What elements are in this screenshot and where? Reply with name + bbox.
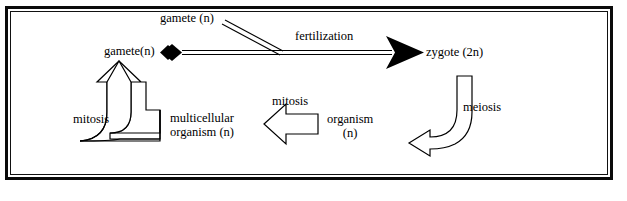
label-organism-line2: (n) [327, 126, 373, 140]
label-organism: organism (n) [327, 112, 373, 140]
solid-diamond-marker-body [162, 44, 182, 61]
gamete-join-line-upper [225, 20, 283, 51]
label-organism-line1: organism [327, 112, 373, 126]
label-fertilization: fertilization [295, 29, 353, 43]
fertilization-arrow [160, 36, 424, 69]
label-multicellular-line1: multicellular [170, 111, 234, 125]
meiosis-arrow-body [409, 76, 472, 156]
fertilization-arrowhead [386, 36, 424, 69]
label-meiosis: meiosis [463, 100, 501, 114]
mitosis-middle-arrow [264, 104, 318, 144]
mitosis-left-arrow [80, 61, 160, 141]
label-multicellular-line2: organism (n) [170, 125, 234, 139]
label-gamete-top: gamete (n) [160, 11, 214, 25]
meiosis-arrow [409, 76, 472, 156]
mitosis-left-arrow-interior [107, 61, 131, 133]
label-zygote: zygote (2n) [426, 45, 483, 59]
label-multicellular-organism: multicellular organism (n) [170, 111, 234, 139]
mitosis-middle-arrow-body [264, 104, 318, 144]
gamete-join-line [222, 20, 283, 55]
diagram-canvas: gamete (n) gamete(n) fertilization zygot… [0, 0, 627, 201]
label-gamete-left: gamete(n) [104, 44, 155, 58]
label-mitosis-left: mitosis [73, 112, 109, 126]
label-mitosis-middle: mitosis [272, 94, 308, 108]
